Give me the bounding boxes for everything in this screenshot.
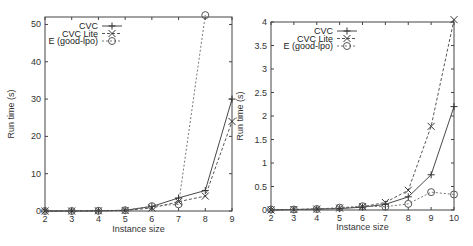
legend-label: E (good-lpo) bbox=[48, 36, 98, 46]
y-tick-label: 0.5 bbox=[254, 182, 267, 192]
y-tick-label: 2 bbox=[262, 111, 267, 121]
x-tick-label: 9 bbox=[229, 214, 234, 224]
x-tick-label: 8 bbox=[406, 213, 411, 223]
x-axis-label: Instance size bbox=[112, 224, 165, 234]
x-tick-label: 2 bbox=[268, 213, 273, 223]
y-tick-label: 2.5 bbox=[254, 88, 267, 98]
x-tick-label: 3 bbox=[69, 214, 74, 224]
series-e-good-lpo- bbox=[268, 189, 458, 213]
y-axis-label: Run time (s) bbox=[235, 91, 245, 140]
y-tick-label: 10 bbox=[31, 169, 41, 179]
x-tick-label: 3 bbox=[291, 213, 296, 223]
y-tick-label: 4 bbox=[262, 17, 267, 27]
x-tick-label: 10 bbox=[449, 213, 459, 223]
y-axis-label: Run time (s) bbox=[6, 89, 16, 138]
left-chart: 2345678901020304050Instance sizeRun time… bbox=[6, 12, 236, 234]
x-tick-label: 6 bbox=[149, 214, 154, 224]
y-tick-label: 20 bbox=[31, 131, 41, 141]
x-tick-label: 8 bbox=[203, 214, 208, 224]
x-tick-label: 4 bbox=[96, 214, 101, 224]
y-tick-label: 50 bbox=[31, 19, 41, 29]
legend: CVCCVC LiteE (good-lpo) bbox=[48, 21, 122, 46]
legend-label: E (good-lpo) bbox=[283, 41, 333, 51]
y-tick-label: 3.5 bbox=[254, 41, 267, 51]
series-cvc bbox=[268, 103, 458, 213]
x-tick-label: 5 bbox=[123, 214, 128, 224]
x-tick-label: 2 bbox=[42, 214, 47, 224]
y-tick-label: 3 bbox=[262, 64, 267, 74]
y-tick-label: 1 bbox=[262, 158, 267, 168]
y-tick-label: 1.5 bbox=[254, 135, 267, 145]
y-tick-label: 40 bbox=[31, 57, 41, 67]
x-tick-label: 9 bbox=[429, 213, 434, 223]
y-tick-label: 30 bbox=[31, 94, 41, 104]
right-chart: 234567891000.511.522.533.54Instance size… bbox=[235, 16, 459, 232]
charts-canvas: 2345678901020304050Instance sizeRun time… bbox=[0, 0, 473, 246]
x-tick-label: 7 bbox=[176, 214, 181, 224]
y-tick-label: 0 bbox=[36, 206, 41, 216]
series-cvc-lite bbox=[42, 118, 236, 215]
y-tick-label: 0 bbox=[262, 205, 267, 215]
plot-frame bbox=[45, 17, 232, 211]
x-tick-label: 4 bbox=[314, 213, 319, 223]
x-axis-label: Instance size bbox=[336, 222, 389, 232]
legend: CVCCVC LiteE (good-lpo) bbox=[283, 26, 357, 51]
